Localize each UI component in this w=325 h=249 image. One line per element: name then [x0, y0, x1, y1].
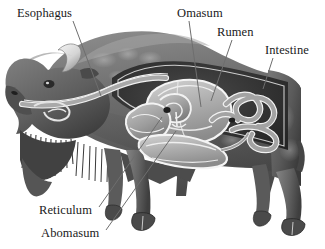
hind-hoof-far: [253, 211, 271, 226]
front-leg-near: [126, 150, 151, 216]
label-abomasum: Abomasum: [41, 227, 99, 240]
hind-leg-far: [252, 164, 270, 214]
label-esophagus: Esophagus: [17, 7, 72, 20]
cardia-opening: [163, 107, 170, 113]
hind-hoof-near: [282, 219, 305, 236]
front-hoof-far: [105, 205, 122, 220]
front-hoof-near: [132, 213, 155, 231]
eye: [44, 80, 55, 88]
label-rumen: Rumen: [217, 26, 254, 39]
bison-digestive-diagram: Esophagus Omasum Rumen Intestine Reticul…: [0, 0, 325, 249]
eye-highlight: [46, 82, 49, 84]
label-reticulum: Reticulum: [39, 204, 92, 217]
label-omasum: Omasum: [177, 7, 223, 20]
label-intestine: Intestine: [265, 44, 309, 57]
pyloric-opening: [229, 117, 235, 122]
